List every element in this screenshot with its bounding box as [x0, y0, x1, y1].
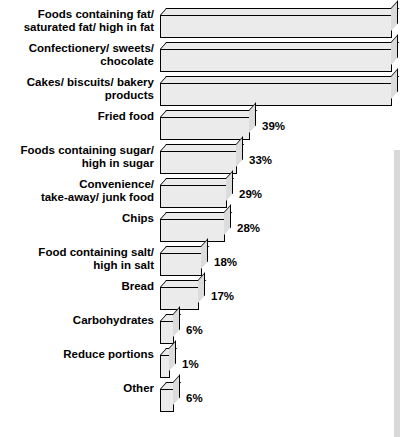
bar-track: 1% [160, 348, 400, 382]
bar [160, 185, 227, 208]
bar [160, 253, 202, 276]
value-label: 6% [186, 392, 203, 404]
bar [160, 15, 392, 38]
bar-side-face [201, 238, 208, 269]
chart-row: Bread17% [0, 280, 400, 314]
bar [160, 219, 225, 242]
category-label: Foods containing sugar/ high in sugar [0, 144, 160, 170]
value-label: 39% [262, 120, 285, 132]
category-label: Reduce portions [0, 348, 160, 361]
bar [160, 117, 250, 140]
category-label: Other [0, 382, 160, 395]
value-label: 1% [182, 358, 199, 370]
chart-row: Fried food39% [0, 110, 400, 144]
bar-track: 29% [160, 178, 400, 212]
bar-track: 6% [160, 314, 400, 348]
bar [160, 389, 174, 412]
category-label: Foods containing fat/ saturated fat/ hig… [0, 8, 160, 34]
bar-track: 18% [160, 246, 400, 280]
bar-track [160, 76, 400, 110]
category-label: Cakes/ biscuits/ bakery products [0, 76, 160, 102]
chart-row: Reduce portions1% [0, 348, 400, 382]
bar-side-face [391, 0, 398, 31]
bar-top-face [160, 8, 399, 15]
bar-side-face [391, 34, 398, 65]
bar-top-face [160, 144, 244, 151]
chart-row: Chips28% [0, 212, 400, 246]
bar [160, 321, 174, 344]
bar-track: 39% [160, 110, 400, 144]
chart-row: Foods containing sugar/ high in sugar33% [0, 144, 400, 178]
bar-track: 28% [160, 212, 400, 246]
value-label: 6% [186, 324, 203, 336]
bar-top-face [160, 110, 257, 117]
bar [160, 151, 237, 174]
category-label: Carbohydrates [0, 314, 160, 327]
bar-top-face [160, 42, 399, 49]
bar [160, 355, 170, 378]
bar-track: 33% [160, 144, 400, 178]
bar-track [160, 8, 400, 42]
chart-row: Foods containing fat/ saturated fat/ hig… [0, 8, 400, 42]
chart-row: Carbohydrates6% [0, 314, 400, 348]
bar-top-face [160, 212, 232, 219]
category-label: Bread [0, 280, 160, 293]
bar-top-face [160, 76, 399, 83]
bar-chart: Foods containing fat/ saturated fat/ hig… [0, 0, 400, 437]
bar-track: 6% [160, 382, 400, 416]
chart-row: Food containing salt/ high in salt18% [0, 246, 400, 280]
bar-side-face [173, 374, 180, 405]
chart-row: Other6% [0, 382, 400, 416]
bar [160, 83, 392, 106]
bar-side-face [249, 102, 256, 133]
bar-top-face [160, 178, 234, 185]
value-label: 17% [211, 290, 234, 302]
bar-side-face [169, 340, 176, 371]
chart-row: Convenience/ take-away/ junk food29% [0, 178, 400, 212]
chart-row: Cakes/ biscuits/ bakery products [0, 76, 400, 110]
category-label: Food containing salt/ high in salt [0, 246, 160, 272]
category-label: Confectionery/ sweets/ chocolate [0, 42, 160, 68]
bar-side-face [391, 68, 398, 99]
value-label: 28% [237, 222, 260, 234]
value-label: 29% [239, 188, 262, 200]
category-label: Convenience/ take-away/ junk food [0, 178, 160, 204]
category-label: Chips [0, 212, 160, 225]
bar-side-face [224, 204, 231, 235]
value-label: 33% [249, 154, 272, 166]
category-label: Fried food [0, 110, 160, 123]
bar-side-face [236, 136, 243, 167]
bar-track: 17% [160, 280, 400, 314]
bar-side-face [198, 272, 205, 303]
chart-row: Confectionery/ sweets/ chocolate [0, 42, 400, 76]
bar-side-face [173, 306, 180, 337]
value-label: 18% [214, 256, 237, 268]
bar [160, 49, 392, 72]
bar-track [160, 42, 400, 76]
bar-side-face [226, 170, 233, 201]
